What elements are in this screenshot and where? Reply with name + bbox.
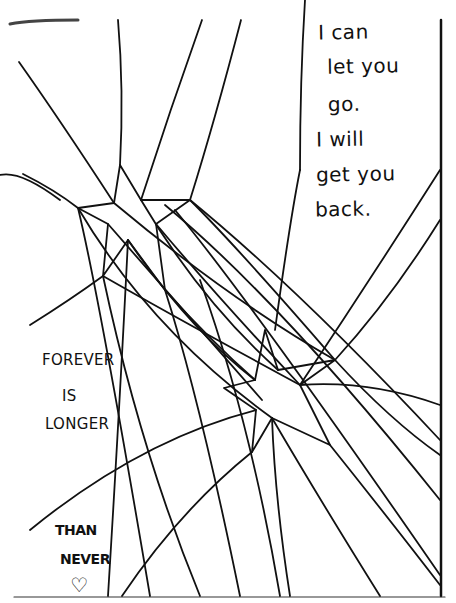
quote-bottom-line: NEVER [60,552,110,566]
line [272,418,380,596]
line [300,384,440,405]
quote-bottom-line: THAN [55,523,97,537]
quote-right-line: I will [316,129,365,150]
line [108,240,128,596]
line [30,276,103,325]
ink-smudge [10,20,78,24]
line [128,240,255,380]
line [200,280,280,596]
quote-right-line: get you [316,163,396,184]
line [103,276,300,385]
quote-right-line: let you [327,55,400,76]
line [23,174,78,208]
line [118,20,122,165]
line [190,20,241,200]
star-lines-drawing [0,0,456,603]
line [141,20,202,200]
quote-left-line: IS [62,389,77,404]
line [122,452,252,596]
quote-right-line: I can [318,22,369,43]
artwork-canvas: I can let you go. I will get you back. F… [0,0,456,603]
quote-left-line: LONGER [45,417,109,432]
line [300,0,305,170]
heart-icon: ♡ [70,575,88,595]
line [335,360,440,455]
quote-left-line: FOREVER [42,353,115,368]
line [335,220,440,360]
line [330,445,440,585]
quote-right-line: back. [315,199,372,220]
upper-star-outline [78,165,190,290]
quote-right-line: go. [328,94,361,115]
